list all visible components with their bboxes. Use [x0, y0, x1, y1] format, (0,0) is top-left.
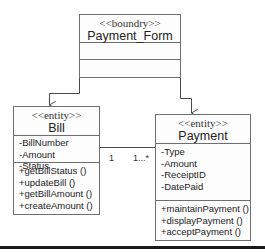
attribute: -Amount: [19, 149, 99, 161]
operation: +createAmount (): [19, 200, 99, 212]
attribute: -BillNumber: [19, 137, 99, 149]
class-header: <<entity>> Bill: [14, 107, 99, 136]
multiplicity-payment: 1...*: [133, 153, 149, 163]
operation: +getBillAmount (): [19, 188, 99, 200]
attribute: -DatePaid: [161, 181, 250, 193]
operation: +updateBill (): [19, 177, 99, 189]
attributes-compartment: [80, 43, 180, 60]
attribute: -Amount: [161, 158, 250, 170]
stereotype-label: <<boundry>>: [80, 17, 180, 29]
class-header: <<entity>> Payment: [156, 115, 250, 144]
class-name: Payment: [156, 129, 250, 144]
attributes-compartment: -BillNumber -Amount -Status: [14, 136, 99, 163]
stereotype-label: <<entity>>: [156, 117, 250, 129]
attributes-compartment: -Type -Amount -ReceiptID -DatePaid: [156, 144, 250, 201]
multiplicity-bill: 1: [109, 153, 114, 163]
operation: +acceptPayment (): [161, 226, 250, 238]
operations-compartment: +maintainPayment () +displayPayment () +…: [156, 201, 250, 238]
attribute: -Type: [161, 146, 250, 158]
operations-compartment: [80, 60, 180, 77]
association-form-to-payment: [181, 77, 192, 113]
operation: +getBillStatus (): [19, 165, 99, 177]
class-header: <<boundry>> Payment_Form: [80, 15, 180, 43]
association-form-to-bill: [50, 77, 80, 105]
attribute: -ReceiptID: [161, 169, 250, 181]
class-name: Bill: [14, 121, 99, 136]
class-payment[interactable]: <<entity>> Payment -Type -Amount -Receip…: [155, 114, 251, 241]
operations-compartment: +getBillStatus () +updateBill () +getBil…: [14, 163, 99, 211]
bottom-divider: [0, 246, 265, 249]
operation: +displayPayment (): [161, 215, 250, 227]
class-bill[interactable]: <<entity>> Bill -BillNumber -Amount -Sta…: [13, 106, 100, 215]
class-name: Payment_Form: [80, 29, 180, 44]
class-payment-form[interactable]: <<boundry>> Payment_Form: [79, 14, 181, 78]
operation: +maintainPayment (): [161, 203, 250, 215]
stereotype-label: <<entity>>: [14, 109, 99, 121]
